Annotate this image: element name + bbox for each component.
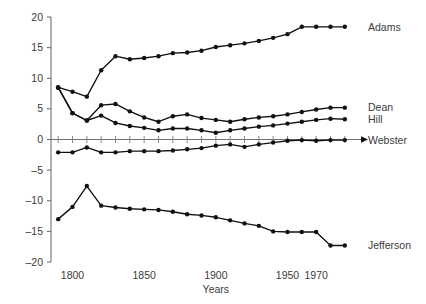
data-point — [343, 25, 347, 29]
y-axis-tick-label: 10 — [31, 72, 43, 84]
data-point — [257, 115, 261, 119]
data-point — [328, 243, 332, 247]
data-point — [113, 54, 117, 58]
x-axis-title: Years — [203, 283, 229, 295]
data-point — [142, 115, 146, 119]
data-point — [300, 110, 304, 114]
data-point — [85, 184, 89, 188]
data-point — [300, 138, 304, 142]
y-axis-tick-label: 20 — [31, 11, 43, 23]
data-point — [128, 109, 132, 113]
series-hill — [56, 85, 347, 135]
data-point — [214, 215, 218, 219]
data-point — [199, 128, 203, 132]
data-point — [300, 120, 304, 124]
data-point — [343, 243, 347, 247]
data-point — [228, 218, 232, 222]
series-label-dean: Dean — [368, 101, 393, 113]
data-point — [85, 118, 89, 122]
data-point — [185, 112, 189, 116]
series-jefferson — [56, 184, 347, 248]
y-axis-tick-label: 15 — [31, 41, 43, 53]
data-point — [99, 103, 103, 107]
x-axis-tick-labels: 18001850190019501970 — [61, 269, 328, 281]
data-point — [113, 205, 117, 209]
data-point — [228, 120, 232, 124]
y-axis-tick-labels: –20–15–10–505101520 — [25, 11, 43, 268]
data-point — [214, 45, 218, 49]
series-label-hill: Hill — [368, 113, 383, 125]
data-point — [285, 112, 289, 116]
data-point — [99, 68, 103, 72]
data-point — [343, 105, 347, 109]
y-axis-tick-label: 0 — [37, 133, 43, 145]
data-point — [70, 205, 74, 209]
data-point — [257, 224, 261, 228]
x-axis-tick-label: 1970 — [304, 269, 328, 281]
y-axis-tick-label: –5 — [31, 164, 43, 176]
data-point — [242, 126, 246, 130]
data-point — [142, 56, 146, 60]
data-point — [328, 116, 332, 120]
series-label-webster: Webster — [368, 134, 407, 146]
data-point — [199, 146, 203, 150]
chart-container: –20–15–10–505101520 18001850190019501970… — [0, 0, 426, 304]
line-chart-plot: –20–15–10–505101520 18001850190019501970… — [0, 0, 426, 304]
data-point — [113, 121, 117, 125]
data-point — [85, 145, 89, 149]
data-point — [328, 138, 332, 142]
data-point — [285, 230, 289, 234]
data-point — [242, 117, 246, 121]
y-axis-tick-label: –15 — [25, 225, 43, 237]
data-point — [156, 208, 160, 212]
data-point — [85, 94, 89, 98]
data-point — [300, 25, 304, 29]
data-point — [314, 230, 318, 234]
series-dean — [56, 85, 347, 124]
y-axis-tick-label: –20 — [25, 256, 43, 268]
x-axis-tick-label: 1950 — [276, 269, 300, 281]
data-point — [285, 139, 289, 143]
data-point — [99, 150, 103, 154]
data-point — [171, 114, 175, 118]
data-point — [171, 210, 175, 214]
data-point — [113, 102, 117, 106]
data-point — [185, 126, 189, 130]
y-axis-tick-label: –10 — [25, 194, 43, 206]
data-point — [70, 150, 74, 154]
data-point — [99, 113, 103, 117]
axis-arrow-icon — [361, 136, 368, 142]
data-point — [228, 142, 232, 146]
data-point — [128, 124, 132, 128]
data-point — [285, 121, 289, 125]
data-point — [185, 212, 189, 216]
data-point — [214, 143, 218, 147]
data-point — [185, 50, 189, 54]
data-point — [271, 229, 275, 233]
data-point — [343, 138, 347, 142]
data-point — [199, 116, 203, 120]
x-axis-group: 18001850190019501970 Years — [51, 136, 368, 295]
data-point — [128, 207, 132, 211]
data-point — [214, 118, 218, 122]
data-point — [142, 149, 146, 153]
data-point — [257, 142, 261, 146]
data-point — [271, 114, 275, 118]
data-point — [257, 124, 261, 128]
data-point — [70, 111, 74, 115]
data-point — [285, 32, 289, 36]
data-point — [314, 25, 318, 29]
data-point — [228, 128, 232, 132]
data-point — [156, 128, 160, 132]
data-point — [199, 48, 203, 52]
data-point — [328, 25, 332, 29]
data-point — [142, 126, 146, 130]
data-point — [242, 145, 246, 149]
data-point — [56, 150, 60, 154]
y-axis-tick-label: 5 — [37, 102, 43, 114]
data-point — [113, 150, 117, 154]
data-point — [314, 139, 318, 143]
data-point — [128, 149, 132, 153]
y-axis-group: –20–15–10–505101520 — [25, 11, 51, 268]
series-label-adams: Adams — [368, 21, 401, 33]
